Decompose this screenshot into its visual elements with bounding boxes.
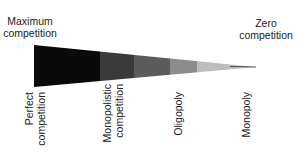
segment-monopolistic <box>100 40 134 90</box>
label-monopolistic-competition: Monopolistic competition <box>102 84 125 152</box>
segment-mid <box>134 40 170 90</box>
label-oligopoly: Oligopoly <box>173 92 185 142</box>
label-monopolistic-line1: Monopolistic <box>102 84 114 152</box>
label-monopoly-line1: Monopoly <box>241 92 253 142</box>
label-perfect-line1: Perfect <box>24 92 36 152</box>
label-perfect-competition: Perfect competition <box>24 92 47 152</box>
label-monopolistic-line2: competition <box>114 84 126 152</box>
segment-oligopoly <box>170 40 197 90</box>
label-perfect-line2: competition <box>36 92 48 152</box>
segment-monopoly <box>197 40 256 90</box>
label-monopoly: Monopoly <box>241 92 253 142</box>
segment-perfect <box>34 40 100 90</box>
label-oligopoly-line1: Oligopoly <box>173 92 185 142</box>
